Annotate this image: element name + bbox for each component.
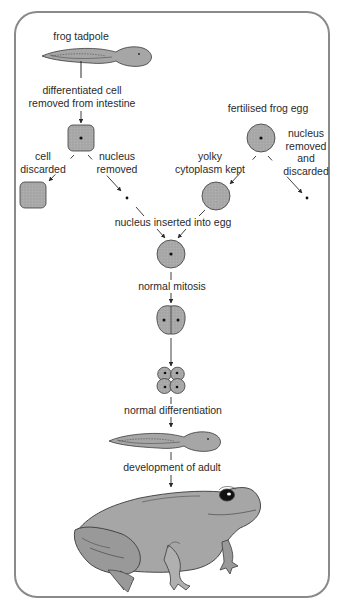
label-line: removed from intestine	[26, 97, 138, 110]
enucleated-egg-icon	[202, 182, 230, 210]
label-line: differentiated cell	[26, 84, 138, 97]
label-line: discarded	[18, 163, 68, 176]
label-line: cell	[18, 150, 68, 163]
label-yolky-cytoplasm: yolky cytoplasm kept	[172, 150, 248, 175]
label-normal-mitosis: normal mitosis	[137, 280, 207, 293]
label-line: discarded	[281, 165, 331, 178]
label-development-of-adult: development of adult	[121, 461, 223, 474]
label-nucleus-removed-right: nucleus removed and discarded	[281, 127, 331, 177]
two-cell-embryo-icon	[157, 306, 185, 334]
label-line: removed	[281, 140, 331, 153]
reconstructed-egg-icon	[157, 240, 185, 268]
label-cell-discarded: cell discarded	[18, 150, 68, 175]
label-line: cytoplasm kept	[172, 163, 248, 176]
label-line: removed	[93, 163, 141, 176]
fertilised-egg-icon	[247, 124, 275, 152]
label-line: nucleus	[93, 150, 141, 163]
label-fertilised-egg: fertilised frog egg	[218, 102, 318, 115]
label-nucleus-inserted: nucleus inserted into egg	[112, 216, 234, 229]
label-line: yolky	[172, 150, 248, 163]
nucleus-dot-icon	[306, 197, 309, 200]
label-nucleus-removed-left: nucleus removed	[93, 150, 141, 175]
label-line: nucleus	[281, 127, 331, 140]
discarded-cell-icon	[20, 182, 46, 208]
label-line: and	[281, 152, 331, 165]
nucleus-dot-icon	[126, 197, 129, 200]
label-frog-tadpole: frog tadpole	[48, 30, 114, 43]
label-differentiated-cell: differentiated cell removed from intesti…	[26, 84, 138, 109]
label-normal-differentiation: normal differentiation	[120, 404, 226, 417]
intestine-cell-icon	[68, 125, 94, 151]
